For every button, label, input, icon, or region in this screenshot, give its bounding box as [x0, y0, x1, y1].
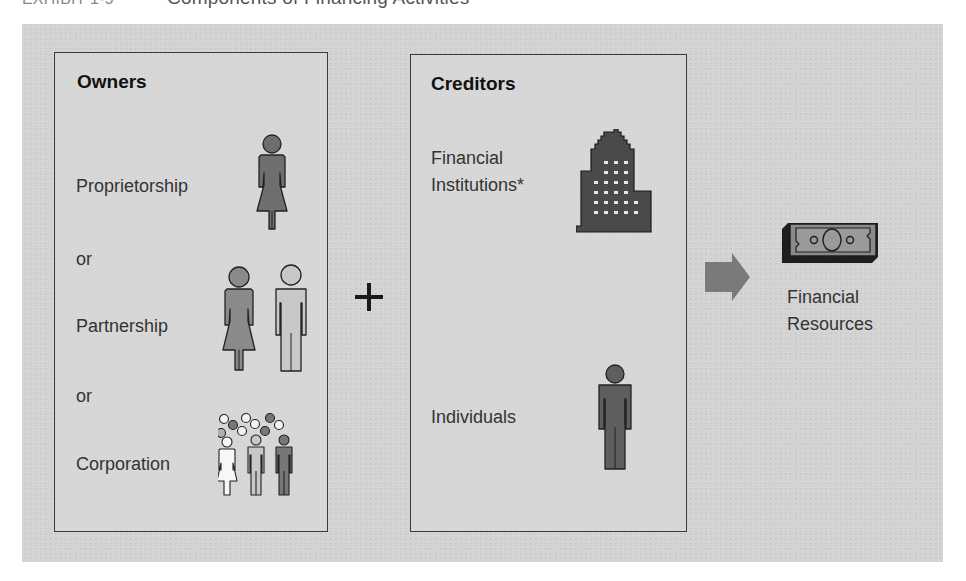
exhibit-title: Components of Financing Activities	[167, 0, 470, 8]
partnership-label: Partnership	[76, 313, 168, 340]
corporation-label: Corporation	[76, 451, 170, 478]
owners-box: Owners Proprietorship or Partnership or …	[54, 52, 328, 532]
woman-icon	[222, 265, 256, 375]
man-icon	[597, 363, 633, 471]
office-building-icon	[576, 129, 653, 233]
plus-operator-icon	[355, 283, 383, 311]
exhibit-number: EXHIBIT 1-5	[22, 0, 167, 8]
financial-institutions-label: Financial Institutions*	[431, 145, 524, 199]
single-woman-icon	[255, 133, 289, 233]
or-connector-1: or	[76, 246, 92, 273]
creditors-title: Creditors	[431, 73, 515, 95]
crowd-icon	[218, 413, 302, 523]
financial-resources-line2: Resources	[787, 311, 873, 338]
proprietorship-label: Proprietorship	[76, 173, 188, 200]
or-connector-2: or	[76, 383, 92, 410]
financial-institutions-line1: Financial	[431, 145, 524, 172]
figure-title: EXHIBIT 1-5Components of Financing Activ…	[22, 0, 470, 7]
owners-title: Owners	[77, 71, 147, 93]
financial-institutions-line2: Institutions*	[431, 172, 524, 199]
financial-resources-label: Financial Resources	[787, 284, 873, 338]
dollar-bill-icon	[782, 219, 882, 265]
financial-resources-line1: Financial	[787, 284, 873, 311]
man-outline-icon	[273, 263, 309, 375]
individuals-label: Individuals	[431, 404, 516, 431]
creditors-box: Creditors Financial Institutions* Indivi…	[410, 54, 687, 532]
right-arrow-icon	[705, 253, 750, 301]
